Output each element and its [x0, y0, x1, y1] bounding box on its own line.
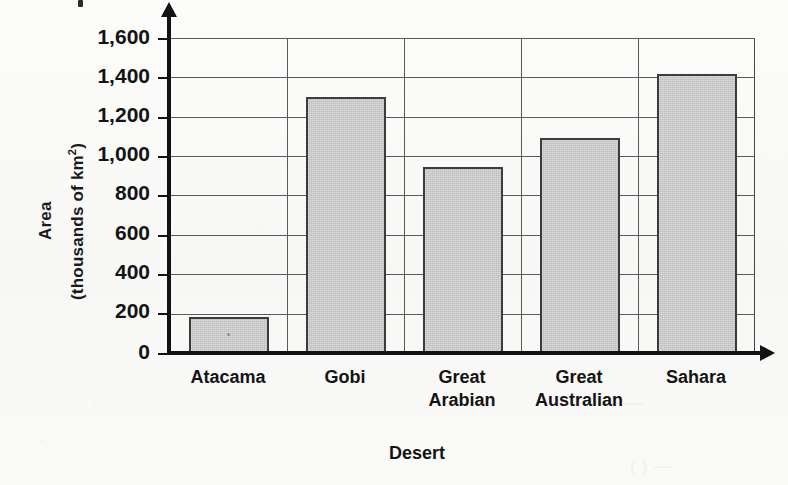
y-tick-label-1600: 1,600 [50, 25, 150, 49]
y-axis-spine [167, 14, 171, 355]
gridline-v-4 [638, 38, 639, 353]
y-tick-label-1400: 1,400 [50, 64, 150, 88]
bar-great-arabian [423, 167, 503, 353]
gridline-h-1600 [170, 38, 755, 39]
y-tick-label-0: 0 [50, 340, 150, 364]
bar-gobi [306, 97, 386, 353]
y-tick-label-200: 200 [50, 299, 150, 323]
y-axis-arrow-icon [161, 2, 177, 17]
x-axis-spine [167, 351, 763, 355]
y-tick-label-800: 800 [50, 181, 150, 205]
gridline-v-2 [404, 38, 405, 353]
x-label-sahara-line1: Sahara [616, 366, 776, 389]
y-tick-label-1000: 1,000 [50, 142, 150, 166]
x-axis-arrow-icon [760, 345, 775, 361]
bar-atacama [189, 317, 269, 353]
x-label-sahara: Sahara [616, 366, 776, 389]
gridline-v-3 [521, 38, 522, 353]
y-tick-label-400: 400 [50, 260, 150, 284]
x-axis-title-text: Desert [389, 443, 445, 464]
bar-speck [227, 333, 230, 336]
plot-area [170, 38, 755, 353]
bar-great-australian [540, 138, 620, 353]
y-axis-tick-labels: 1,600 1,400 1,200 1,000 800 600 400 200 … [45, 0, 150, 485]
y-tick-label-1200: 1,200 [50, 103, 150, 127]
gridline-v-1 [287, 38, 288, 353]
chart-page: — — ( ) — · Area (thousands of km2) 1,60… [0, 0, 788, 485]
bar-sahara [657, 74, 737, 353]
x-label-great-australian-line2: Australian [499, 389, 659, 412]
y-tick-label-600: 600 [50, 221, 150, 245]
x-axis-title: Desert [0, 443, 788, 464]
